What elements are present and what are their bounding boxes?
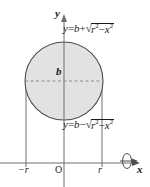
lower-x-exp: 2 — [110, 118, 113, 125]
x-axis-label: x — [137, 164, 143, 175]
origin-label: O — [55, 165, 62, 175]
upper-radicand: r2−x2 — [91, 23, 114, 35]
rotation-arrow-icon — [120, 154, 138, 169]
lower-radicand: r2−x2 — [91, 119, 114, 131]
y-axis-label: y — [55, 8, 60, 19]
lower-curve-label: y=b−√r2−x2 — [63, 118, 114, 130]
center-height-label: b — [56, 66, 62, 77]
upper-curve-label: y=b+√r2−x2 — [63, 22, 114, 34]
upper-x-exp: 2 — [110, 22, 113, 29]
tick-label-negative-r: −r — [18, 165, 29, 175]
y-axis-arrow-icon — [61, 14, 67, 22]
rotation-volume-diagram: y=b+√r2−x2 y=b−√r2−x2 b y x −r O r — [0, 0, 150, 187]
tick-label-r: r — [98, 165, 102, 175]
